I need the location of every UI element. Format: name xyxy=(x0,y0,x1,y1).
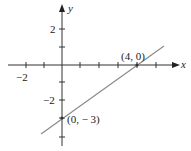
x-tick-label-neg2: −2 xyxy=(16,72,28,83)
point-x-intercept xyxy=(135,63,138,66)
y-intercept-label: (0, − 3) xyxy=(67,114,100,125)
data-line xyxy=(41,46,164,134)
y-axis-label: y xyxy=(68,3,73,14)
x-intercept-label: (4, 0) xyxy=(121,51,145,62)
graph xyxy=(0,0,191,151)
y-axis-arrow-icon xyxy=(59,4,65,12)
x-axis-arrow-icon xyxy=(172,62,180,68)
y-tick-label-neg2: −2 xyxy=(43,95,55,106)
y-tick-label-2: 2 xyxy=(50,24,56,35)
x-axis-label: x xyxy=(181,59,186,70)
point-y-intercept xyxy=(60,116,63,119)
